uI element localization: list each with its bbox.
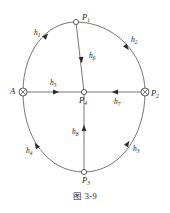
node-marker-p1[interactable]	[73, 19, 78, 24]
edge-label-h7: h7	[114, 97, 121, 107]
arrowhead-h5	[53, 90, 59, 95]
figure-caption: 图 3-9	[0, 189, 170, 201]
arrowhead-h2	[123, 44, 131, 52]
edge-label-h4: h4	[26, 146, 33, 156]
node-label-p1: P1	[81, 12, 90, 23]
edge-label-h6: h6	[89, 51, 96, 61]
node-marker-a[interactable]	[19, 88, 27, 96]
arrowhead-h7	[112, 90, 118, 95]
arrowhead-h6	[79, 57, 85, 64]
node-marker-p2[interactable]	[141, 88, 149, 96]
edge-label-h5: h5	[50, 78, 57, 88]
node-marker-p3[interactable]	[81, 169, 86, 174]
node-label-p4: P4	[78, 95, 87, 106]
arrowhead-h8	[82, 125, 87, 131]
figure-container: P1 A P2 P3 P4 h1 h2 h3 h4 h5 h6	[0, 0, 170, 213]
edge-label-h8: h8	[72, 127, 79, 137]
edge-label-h2: h2	[131, 35, 138, 45]
edge-label-h1: h1	[34, 28, 41, 38]
arc-h2-upper-right	[76, 22, 145, 92]
node-label-p2: P2	[150, 88, 159, 99]
arrowhead-h3	[124, 140, 131, 148]
node-marker-p4[interactable]	[81, 89, 86, 94]
node-label-a: A	[9, 86, 16, 96]
node-label-p3: P3	[81, 175, 90, 186]
edge-label-h3: h3	[133, 144, 140, 154]
graph-diagram: P1 A P2 P3 P4 h1 h2 h3 h4 h5 h6	[0, 0, 170, 213]
